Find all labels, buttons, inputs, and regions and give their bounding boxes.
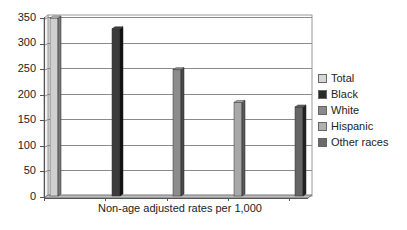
legend-label-black: Black [331, 88, 358, 100]
legend-label-hispanic: Hispanic [331, 120, 373, 132]
legend-swatch-black [318, 90, 327, 99]
bar-white [173, 68, 184, 196]
legend-item-hispanic: Hispanic [318, 118, 388, 134]
legend-label-white: White [331, 104, 359, 116]
legend-label-other-races: Other races [331, 136, 388, 148]
y-tick-label-50: 50 [0, 164, 36, 176]
y-tick-label-250: 250 [0, 62, 36, 74]
bar-chart: 350 300 250 200 150 100 50 0 Non-age adj… [0, 0, 407, 230]
y-tick-label-350: 350 [0, 11, 36, 23]
legend: Total Black White Hispanic Other races [318, 70, 388, 150]
bar-other-races [295, 105, 306, 196]
y-tick-label-0: 0 [0, 190, 36, 202]
x-axis-label: Non-age adjusted rates per 1,000 [48, 202, 312, 214]
legend-item-white: White [318, 102, 388, 118]
bar-total [50, 16, 61, 196]
y-tick-label-300: 300 [0, 36, 36, 48]
legend-swatch-hispanic [318, 122, 327, 131]
bar-black [112, 27, 123, 196]
y-tick-label-150: 150 [0, 113, 36, 125]
legend-swatch-white [318, 106, 327, 115]
y-tick-label-100: 100 [0, 139, 36, 151]
bar-hispanic [234, 100, 245, 196]
legend-label-total: Total [331, 72, 354, 84]
y-tick-label-200: 200 [0, 88, 36, 100]
legend-swatch-total [318, 74, 327, 83]
legend-swatch-other-races [318, 138, 327, 147]
legend-item-other-races: Other races [318, 134, 388, 150]
legend-item-total: Total [318, 70, 388, 86]
legend-item-black: Black [318, 86, 388, 102]
